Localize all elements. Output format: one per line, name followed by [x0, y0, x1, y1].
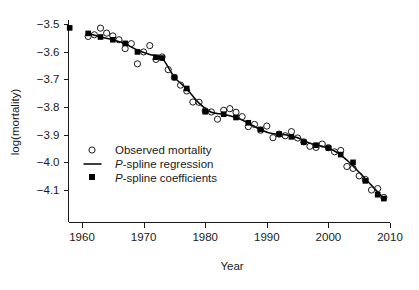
y-tick-label: −4.0	[37, 156, 60, 168]
y-tick-label: −3.7	[37, 73, 60, 85]
x-tick-label: 2010	[377, 231, 403, 243]
y-tick-label: −3.5	[37, 18, 60, 30]
legend-text-observed: Observed mortality	[115, 144, 212, 156]
y-axis-title: log(mortality)	[9, 89, 21, 156]
figure-container: −3.5−3.6−3.7−3.8−3.9−4.0−4.1 19601970198…	[0, 0, 419, 290]
observed-mortality-marker	[344, 163, 350, 169]
observed-mortality-marker	[128, 41, 134, 47]
p-spline-coefficient-marker	[67, 25, 73, 31]
mortality-scatter-chart: −3.5−3.6−3.7−3.8−3.9−4.0−4.1 19601970198…	[0, 0, 419, 290]
observed-mortality-marker	[270, 135, 276, 141]
p-spline-coefficient-marker	[98, 34, 104, 40]
y-axis-ticks: −3.5−3.6−3.7−3.8−3.9−4.0−4.1	[37, 18, 69, 196]
legend-label-observed-mortality: Observed mortality	[115, 144, 212, 156]
legend-text-regression: -spline regression	[123, 158, 214, 170]
p-spline-coefficient-marker	[350, 160, 356, 166]
x-axis-ticks: 196019701980199020002010	[69, 223, 403, 243]
p-spline-coefficient-marker	[381, 196, 387, 202]
y-tick-label: −4.1	[37, 184, 60, 196]
observed-mortality-marker	[104, 30, 110, 36]
observed-mortality-marker	[356, 173, 362, 179]
p-spline-coefficient-marker	[258, 127, 264, 133]
observed-mortality-marker	[134, 61, 140, 67]
p-spline-coefficient-marker	[172, 75, 178, 81]
x-axis-title: Year	[220, 260, 243, 272]
p-spline-coefficient-marker	[375, 192, 381, 198]
p-spline-coefficient-marker	[153, 54, 159, 60]
observed-mortality-marker	[368, 187, 374, 193]
observed-mortality-marker	[288, 129, 294, 135]
axes	[69, 20, 391, 223]
observed-mortality-marker	[227, 106, 233, 112]
legend-text-coefficients: -spline coefficients	[123, 172, 218, 184]
p-spline-coefficient-marker	[233, 115, 239, 121]
p-spline-coefficient-marker	[135, 49, 141, 55]
p-spline-coefficient-marker	[184, 86, 190, 92]
p-spline-coefficient-marker	[246, 120, 252, 126]
x-tick-label: 1960	[69, 231, 95, 243]
p-spline-coefficient-marker	[159, 55, 165, 61]
observed-mortality-marker	[307, 143, 313, 149]
observed-mortality-marker	[264, 123, 270, 129]
observed-mortality-marker	[239, 114, 245, 120]
x-tick-label: 2000	[316, 231, 342, 243]
x-tick-label: 1990	[254, 231, 280, 243]
p-spline-coefficient-marker	[122, 41, 128, 47]
p-spline-coefficient-marker	[301, 139, 307, 145]
legend: Observed mortality P-spline regression P…	[84, 144, 217, 184]
p-spline-coefficient-marker	[289, 134, 295, 140]
p-spline-coefficient-marker	[221, 111, 227, 117]
p-spline-coefficient-marker	[338, 152, 344, 158]
legend-label-p-spline-coefficients: P-spline coefficients	[115, 172, 217, 184]
observed-mortality-marker	[122, 46, 128, 52]
observed-mortality-marker	[97, 25, 103, 31]
p-spline-coefficient-marker	[326, 145, 332, 151]
p-spline-coefficient-marker	[85, 31, 91, 37]
legend-marker-open-circle	[89, 147, 95, 153]
legend-marker-filled-square	[89, 174, 95, 180]
y-tick-label: −3.8	[37, 101, 60, 113]
y-tick-label: −3.6	[37, 46, 60, 58]
p-spline-coefficient-marker	[276, 131, 282, 137]
p-spline-coefficient-marker	[313, 142, 319, 148]
p-spline-coefficient-marker	[110, 37, 116, 43]
observed-mortality-marker	[147, 42, 153, 48]
observed-mortality-marker	[190, 99, 196, 105]
x-tick-label: 1980	[192, 231, 218, 243]
x-tick-label: 1970	[131, 231, 157, 243]
p-spline-coefficient-marker	[202, 109, 208, 115]
observed-mortality-marker	[233, 109, 239, 115]
p-spline-coefficient-marker	[363, 178, 369, 184]
observed-mortality-marker	[214, 116, 220, 122]
legend-label-p-spline-regression: P-spline regression	[115, 158, 213, 170]
y-tick-label: −3.9	[37, 129, 60, 141]
